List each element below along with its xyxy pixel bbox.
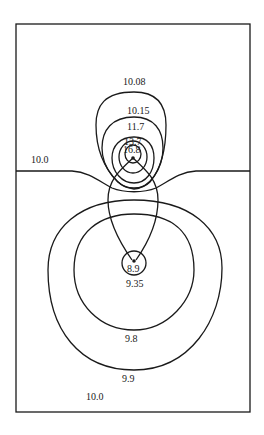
label-10-0-boundary: 10.0: [31, 155, 49, 165]
label-10-0-far: 10.0: [86, 392, 104, 402]
label-9-8: 9.8: [125, 334, 138, 344]
label-8-9: 8.9: [127, 264, 140, 274]
label-9-9: 9.9: [122, 374, 135, 384]
label-11-7: 11.7: [127, 122, 144, 132]
label-10-08: 10.08: [123, 77, 146, 87]
label-16-8: 16.8: [123, 145, 141, 155]
contour-plot: [0, 0, 264, 435]
label-10-15: 10.15: [127, 106, 150, 116]
label-9-35: 9.35: [126, 279, 144, 289]
